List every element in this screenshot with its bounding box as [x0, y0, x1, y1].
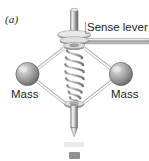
callout-label-mass-left: Mass	[11, 89, 38, 101]
figure-panel-a: (a) Sense lever Mass Mass	[0, 0, 149, 161]
mass-sphere-left-part	[16, 62, 39, 85]
mass-sphere-right-part	[109, 62, 132, 85]
lower-shaft-part	[71, 106, 78, 137]
next-panel-fragment-faint	[64, 142, 84, 147]
next-panel-fragment	[69, 152, 80, 159]
callout-label-sense-lever: Sense lever	[87, 22, 148, 34]
panel-label: (a)	[5, 14, 18, 25]
callout-label-mass-right: Mass	[111, 89, 138, 101]
sense-lever-bar-part	[82, 38, 149, 44]
